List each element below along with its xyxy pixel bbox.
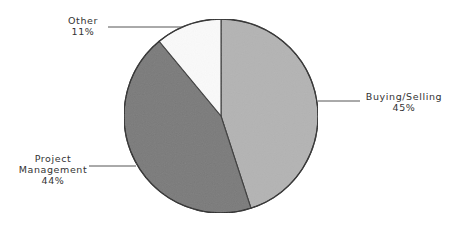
- label-buying-selling-name: Buying/Selling: [362, 91, 446, 102]
- label-other-name: Other: [60, 15, 106, 26]
- label-buying-selling: Buying/Selling 45%: [362, 91, 446, 113]
- label-project-management-value: 44%: [14, 175, 92, 186]
- label-other: Other 11%: [60, 15, 106, 37]
- label-project-management: Project Management 44%: [14, 153, 92, 186]
- label-project-management-line2: Management: [14, 164, 92, 175]
- label-other-value: 11%: [60, 26, 106, 37]
- label-project-management-line1: Project: [14, 153, 92, 164]
- label-buying-selling-value: 45%: [362, 102, 446, 113]
